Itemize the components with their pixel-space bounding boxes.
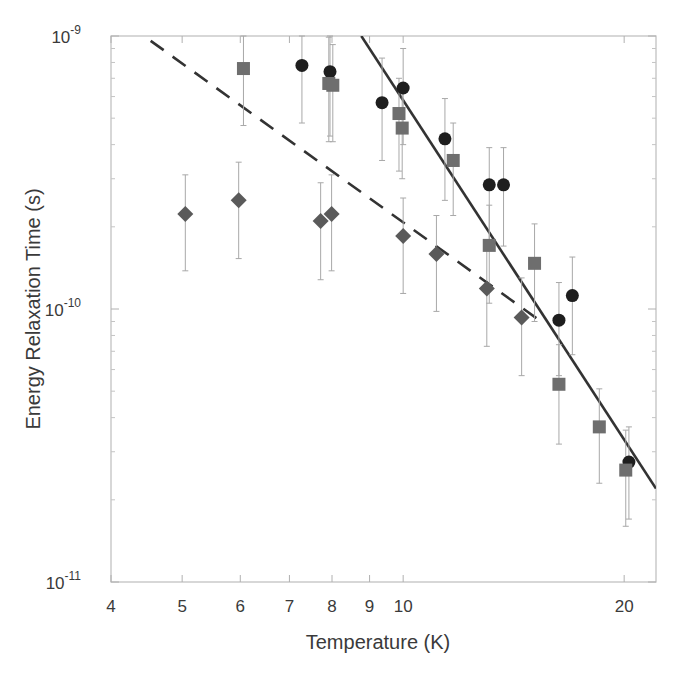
square-marker <box>392 107 405 120</box>
y-tick-label: 10-11 <box>46 569 82 593</box>
x-tick-label: 20 <box>615 597 634 616</box>
square-marker <box>619 464 632 477</box>
y-axis-ticks: 10-1110-1010-9 <box>45 23 656 593</box>
x-tick-label: 7 <box>285 597 294 616</box>
y-axis-title: Energy Relaxation Time (s) <box>22 188 44 429</box>
square-marker <box>528 257 541 270</box>
plot-frame <box>111 36 656 582</box>
square-marker <box>326 79 339 92</box>
x-tick-label: 9 <box>365 597 374 616</box>
solid-fit-line <box>361 36 656 489</box>
square-marker <box>237 62 250 75</box>
y-tick-label: 10-9 <box>51 23 81 47</box>
square-marker <box>593 420 606 433</box>
diamond-marker <box>395 228 411 244</box>
circle-marker <box>295 59 308 72</box>
circle-marker <box>397 81 410 94</box>
square-marker <box>447 154 460 167</box>
data-markers <box>177 59 635 477</box>
diamond-marker <box>479 280 495 296</box>
circle-marker <box>324 65 337 78</box>
plot-border <box>111 36 656 582</box>
circle-marker <box>376 96 389 109</box>
circle-marker <box>438 132 451 145</box>
circle-marker <box>483 178 496 191</box>
x-axis-ticks: 4567891020 <box>106 36 633 616</box>
circle-marker <box>566 289 579 302</box>
diamond-marker <box>231 192 247 208</box>
circle-marker <box>552 314 565 327</box>
y-tick-label: 10-10 <box>45 296 82 320</box>
x-axis-title: Temperature (K) <box>306 631 451 653</box>
square-marker <box>483 239 496 252</box>
x-tick-label: 4 <box>106 597 115 616</box>
square-marker <box>396 122 409 135</box>
diamond-marker <box>177 206 193 222</box>
energy-relaxation-chart: 4567891020 10-1110-1010-9 Temperature (K… <box>0 0 677 676</box>
square-marker <box>552 378 565 391</box>
circle-marker <box>497 178 510 191</box>
x-tick-label: 8 <box>327 597 336 616</box>
diamond-marker <box>428 246 444 262</box>
error-bars <box>182 36 632 526</box>
x-tick-label: 5 <box>177 597 186 616</box>
x-tick-label: 6 <box>236 597 245 616</box>
x-tick-label: 10 <box>394 597 413 616</box>
